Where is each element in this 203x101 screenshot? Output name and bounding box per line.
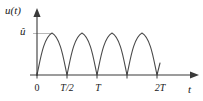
rectified-sine-curve bbox=[37, 33, 160, 75]
rectified-sine-waveform-figure: u(t) û t 0 T/2 T 2T bbox=[0, 0, 203, 101]
x-tick-label-2t: 2T bbox=[148, 83, 172, 93]
x-tick-label-0: 0 bbox=[31, 83, 43, 93]
y-axis-label: u(t) bbox=[5, 5, 21, 16]
x-tick-label-t: T bbox=[92, 83, 104, 93]
x-tick-label-t-half: T/2 bbox=[54, 83, 80, 93]
y-axis-arrowhead bbox=[33, 8, 40, 17]
x-axis-arrowhead bbox=[190, 72, 199, 79]
x-axis-label: t bbox=[188, 84, 191, 95]
amplitude-label: û bbox=[20, 26, 26, 37]
